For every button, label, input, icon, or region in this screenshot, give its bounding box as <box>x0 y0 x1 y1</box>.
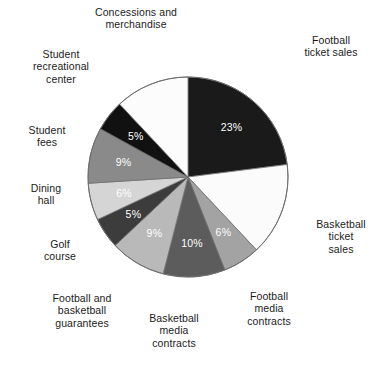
pie-slice-value-label: 5% <box>128 130 144 142</box>
callout-dining-hall: Dining hall <box>4 182 88 207</box>
callout-basketball-media-contracts: Basketball media contracts <box>128 312 220 349</box>
pie-slice-value-label: 10% <box>181 237 203 249</box>
pie-slice-value-label: 12% <box>153 109 175 121</box>
callout-golf-course: Golf course <box>18 238 102 263</box>
callout-concessions-and-merchandise: Concessions and merchandise <box>56 6 216 31</box>
pie-slice-value-label: 15% <box>239 193 261 205</box>
pie-chart-figure: 23%15%6%10%9%5%6%9%5%12% Concessions and… <box>0 0 383 372</box>
callout-football-media-contracts: Football media contracts <box>228 290 310 327</box>
callout-football-ticket-sales: Football ticket sales <box>282 34 380 59</box>
callout-student-fees: Student fees <box>4 124 90 149</box>
pie-slice-value-label: 9% <box>116 156 132 168</box>
pie-slice-value-label: 6% <box>116 187 132 199</box>
callout-football-and-basketball-guarantees: Football and basketball guarantees <box>30 292 134 329</box>
pie-slice-value-label: 6% <box>216 226 232 238</box>
pie-slice-value-label: 23% <box>221 121 243 133</box>
callout-student-recreational-center: Student recreational center <box>6 48 116 85</box>
callout-basketball-ticket-sales: Basketball ticket sales <box>302 218 380 255</box>
pie-slice-value-label: 9% <box>147 227 163 239</box>
pie-slice-value-label: 5% <box>126 208 142 220</box>
